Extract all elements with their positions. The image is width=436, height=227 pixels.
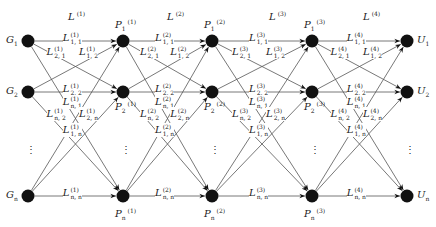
edge-label-n-2-layer1: L(1)n, 2 xyxy=(47,107,66,121)
edge-label-2-n-layer4: L(4)2, n xyxy=(363,107,382,121)
edge-label-1-1-layer4: L(4)1, 1 xyxy=(347,31,366,45)
edge-label-n-2-layer3: L(3)n, 2 xyxy=(232,107,251,121)
edge-label-1-n-layer3: L(3)1, n xyxy=(249,123,268,137)
ellipsis: ⋮ xyxy=(310,148,320,152)
edge-label-2-2-layer1: L(1)2, 2 xyxy=(63,82,82,96)
node-p-n xyxy=(306,190,319,203)
layer-label-3: L(3) xyxy=(269,10,286,22)
node-label: Pn(3) xyxy=(304,208,325,221)
edge-label-1-n-layer4: L(4)1, n xyxy=(347,123,366,137)
edge-label-2-n-layer1: L(1)2, n xyxy=(79,107,98,121)
node-g-n xyxy=(22,190,35,203)
node-label: Un xyxy=(417,190,429,202)
edge-label-1-1-layer3: L(3)1, 1 xyxy=(249,31,268,45)
edge-label-2-2-layer4: L(4)2, 2 xyxy=(347,82,366,96)
edge-label-1-2-layer3: L(3)1, 2 xyxy=(266,45,285,59)
edge-label-1-2-layer2: L(2)1, 2 xyxy=(170,45,189,59)
node-p-n xyxy=(117,190,130,203)
node-label: Pn(2) xyxy=(204,208,225,221)
edge-label-n-n-layer3: L(3)n, n xyxy=(249,186,268,200)
edge-label-n-n-layer1: L(1)n, n xyxy=(63,186,82,200)
node-label: P1(3) xyxy=(304,19,325,32)
node-u-1 xyxy=(401,35,414,48)
edge-label-n-n-layer4: L(4)n, n xyxy=(347,186,366,200)
node-label: G1 xyxy=(6,35,18,47)
node-label: G2 xyxy=(6,86,18,98)
node-label: P2(1) xyxy=(115,101,136,114)
layer-label-2: L(2) xyxy=(167,10,184,22)
edge-label-n-2-layer2: L(2)n, 2 xyxy=(140,107,159,121)
ellipsis: ⋮ xyxy=(26,148,36,152)
node-p-n xyxy=(206,190,219,203)
edge-label-1-2-layer1: L(1)1, 2 xyxy=(79,45,98,59)
edge-label-2-1-layer3: L(3)2, 1 xyxy=(232,45,251,59)
edge-label-1-1-layer1: L(1)1, 1 xyxy=(63,31,82,45)
edge-label-1-n-layer2: L(2)1, n xyxy=(155,123,174,137)
node-label: P2(3) xyxy=(304,101,325,114)
ellipsis: ⋮ xyxy=(210,148,220,152)
edge-label-1-2-layer4: L(4)1, 2 xyxy=(363,45,382,59)
edge-label-n-2-layer4: L(4)n, 2 xyxy=(331,107,350,121)
layer-label-4: L(4) xyxy=(363,10,380,22)
node-label: U1 xyxy=(417,35,429,47)
node-p-1 xyxy=(117,35,130,48)
edge-label-n-n-layer2: L(2)n, n xyxy=(155,186,174,200)
edge-label-2-2-layer3: L(3)2, 2 xyxy=(249,82,268,96)
edge-label-2-1-layer1: L(1)2, 1 xyxy=(47,45,66,59)
node-label: Pn(1) xyxy=(115,208,136,221)
edge-label-1-n-layer1: L(1)1, n xyxy=(63,123,82,137)
node-g-2 xyxy=(22,86,35,99)
edge-label-2-1-layer2: L(2)2, 1 xyxy=(140,45,159,59)
node-u-n xyxy=(401,190,414,203)
layer-label-1: L(1) xyxy=(68,10,85,22)
node-p-1 xyxy=(206,35,219,48)
node-p-2 xyxy=(306,86,319,99)
edge-label-2-n-layer3: L(3)2, n xyxy=(266,107,285,121)
node-label: P2(2) xyxy=(204,101,225,114)
node-label: Gn xyxy=(6,190,18,202)
node-label: U2 xyxy=(417,86,429,98)
edge-label-2-2-layer2: L(2)2, 2 xyxy=(155,82,174,96)
node-u-2 xyxy=(401,86,414,99)
edge-label-1-1-layer2: L(2)1, 1 xyxy=(155,31,174,45)
ellipsis: ⋮ xyxy=(121,148,131,152)
edge-label-2-n-layer2: L(2)2, n xyxy=(170,107,189,121)
edge-label-2-1-layer4: L(4)2, 1 xyxy=(331,45,350,59)
node-p-1 xyxy=(306,35,319,48)
node-g-1 xyxy=(22,35,35,48)
ellipsis: ⋮ xyxy=(405,148,415,152)
node-p-2 xyxy=(206,86,219,99)
node-label: P1(2) xyxy=(204,19,225,32)
node-p-2 xyxy=(117,86,130,99)
node-label: P1(1) xyxy=(115,19,136,32)
